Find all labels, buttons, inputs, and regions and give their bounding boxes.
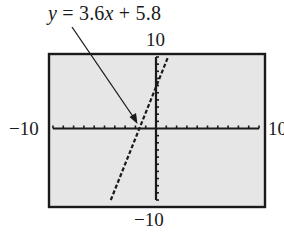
graphing-calculator-screen [0, 0, 284, 234]
